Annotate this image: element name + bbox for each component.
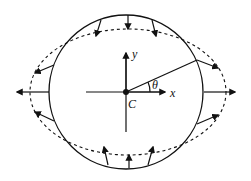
- arrow-top-left: [96, 20, 101, 36]
- deformation-diagram: y x C θ: [0, 0, 251, 181]
- x-axis-label: x: [169, 86, 176, 100]
- radius-line: [126, 60, 197, 92]
- center-label: C: [128, 97, 137, 111]
- arrow-lower-right: [197, 115, 218, 124]
- y-axis-label: y: [131, 47, 138, 61]
- arrow-bottom-right: [148, 147, 153, 165]
- angle-arc: [148, 82, 150, 92]
- angle-label: θ: [152, 78, 158, 92]
- axes: [86, 53, 197, 132]
- arrow-upper-right: [197, 60, 218, 68]
- center-point: [123, 89, 129, 95]
- arrow-top-right: [152, 20, 156, 36]
- arrow-bottom-left: [104, 147, 108, 165]
